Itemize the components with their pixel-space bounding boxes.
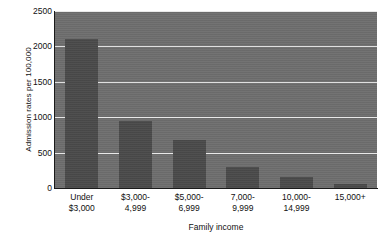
bar bbox=[226, 167, 259, 188]
x-axis-tick-label-line: 4,999 bbox=[121, 203, 150, 214]
x-axis-tick-label: $5,000-6,999 bbox=[175, 192, 204, 213]
x-axis-tick-label-line: $3,000- bbox=[121, 192, 150, 203]
bars-group bbox=[55, 11, 377, 188]
y-axis-tick-label: 1000 bbox=[14, 113, 52, 121]
bar bbox=[173, 140, 206, 188]
x-axis-tick-label-line: 15,000+ bbox=[335, 192, 366, 203]
x-axis-tick-label: 15,000+ bbox=[335, 192, 366, 203]
y-axis-tick-labels: 05001000150020002500 bbox=[14, 0, 52, 244]
plot-area bbox=[55, 11, 377, 188]
x-axis-tick-label-line: $5,000- bbox=[175, 192, 204, 203]
x-axis-tick-label-line: 9,999 bbox=[231, 203, 255, 214]
x-axis-tick-labels: Under$3,000$3,000-4,999$5,000-6,9997,000… bbox=[55, 192, 377, 226]
x-axis-tick-label-line: 7,000- bbox=[231, 192, 255, 203]
y-axis-tick-label: 2500 bbox=[14, 7, 52, 15]
bar-chart: Admission rates per 100,000 050010001500… bbox=[0, 0, 385, 244]
x-axis-tick-label-line: $3,000 bbox=[69, 203, 95, 214]
x-axis-line bbox=[54, 188, 378, 189]
bar bbox=[119, 121, 152, 188]
x-axis-tick-label-line: 6,999 bbox=[175, 203, 204, 214]
x-axis-tick-label: 10,000-14,999 bbox=[282, 192, 311, 213]
bar bbox=[280, 177, 313, 188]
x-axis-tick-label-line: 10,000- bbox=[282, 192, 311, 203]
y-axis-tick-label: 0 bbox=[14, 184, 52, 192]
y-axis-tick-label: 2000 bbox=[14, 42, 52, 50]
y-axis-tick-label: 500 bbox=[14, 149, 52, 157]
x-axis-tick-label-line: Under bbox=[69, 192, 95, 203]
x-axis-tick-label: Under$3,000 bbox=[69, 192, 95, 213]
x-axis-tick-label: 7,000-9,999 bbox=[231, 192, 255, 213]
y-axis-tick-label: 1500 bbox=[14, 78, 52, 86]
x-axis-tick-label: $3,000-4,999 bbox=[121, 192, 150, 213]
x-axis-tick-label-line: 14,999 bbox=[282, 203, 311, 214]
bar bbox=[65, 39, 98, 188]
x-axis-title: Family income bbox=[55, 222, 377, 232]
